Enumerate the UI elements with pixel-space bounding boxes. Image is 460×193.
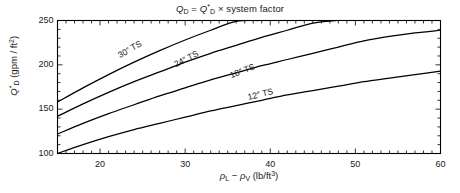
y-tick-label: 150 [28, 103, 54, 113]
curve-12-ts [58, 71, 441, 153]
y-tick-label: 200 [28, 59, 54, 69]
axis-frame [58, 21, 441, 154]
axis-ticks [58, 21, 441, 154]
x-tick-label: 50 [342, 159, 368, 169]
x-tick-label: 30 [172, 159, 198, 169]
curve-30-ts [58, 20, 259, 102]
y-tick-label: 250 [28, 15, 54, 25]
chart-figure: QD = Q*D × system factor Q*D (gpm / ft2)… [0, 0, 460, 193]
y-tick-label: 100 [28, 148, 54, 158]
x-tick-label: 60 [428, 159, 454, 169]
x-tick-label: 20 [87, 159, 113, 169]
curve-18-ts [58, 30, 441, 134]
data-curves [58, 20, 441, 153]
x-tick-label: 40 [257, 159, 283, 169]
plot-area [0, 0, 460, 193]
